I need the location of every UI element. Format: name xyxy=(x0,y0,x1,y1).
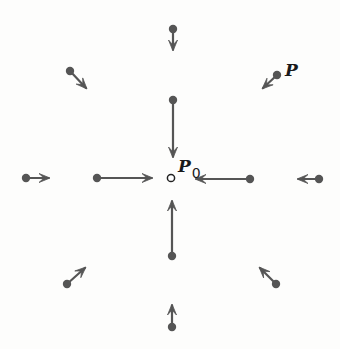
vector-field-diagram: PP0 xyxy=(0,0,340,349)
vector-tail-dot xyxy=(272,280,280,288)
vector-tail-dot xyxy=(63,280,71,288)
vector-arrow xyxy=(22,174,50,183)
vector-arrow xyxy=(63,267,86,288)
vector-tail-dot xyxy=(169,96,177,104)
vector-tail-dot xyxy=(169,25,177,33)
label-subscript: 0 xyxy=(192,165,201,181)
vector-tail-dot xyxy=(168,252,176,260)
vector-tail-dot xyxy=(315,175,323,183)
vector-tail-dot xyxy=(246,175,254,183)
vector-tail-dot xyxy=(168,323,176,331)
vector-arrow xyxy=(297,175,323,184)
vector-arrow xyxy=(93,174,153,183)
vector-tail-dot xyxy=(66,67,74,75)
vector-tail-dot xyxy=(93,174,101,182)
vector-arrow xyxy=(195,175,254,184)
vector-arrow xyxy=(168,304,177,331)
vector-arrow xyxy=(259,267,280,288)
point-label-p0: P0 xyxy=(177,156,201,181)
vector-arrow xyxy=(168,200,177,260)
point-label-p: P xyxy=(284,60,299,80)
labels-layer: PP0 xyxy=(177,60,299,181)
vector-arrow xyxy=(169,25,178,51)
vector-arrow xyxy=(66,67,87,89)
vector-arrow xyxy=(169,96,178,158)
vector-tail-dot xyxy=(22,174,30,182)
vector-tail-dot xyxy=(273,71,281,79)
center-point-p0 xyxy=(167,174,174,181)
vector-arrow xyxy=(262,71,281,89)
